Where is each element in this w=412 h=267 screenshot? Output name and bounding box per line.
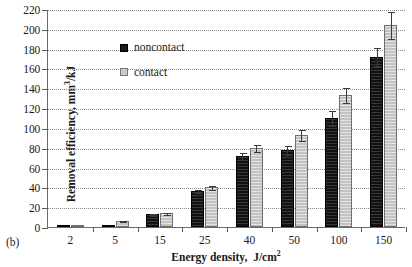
y-axis-tick bbox=[42, 89, 48, 90]
x-axis-tick bbox=[227, 227, 228, 232]
y-axis-tick-label: 160 bbox=[23, 63, 40, 75]
x-axis-tick bbox=[361, 227, 362, 232]
y-axis-tick-label: 0 bbox=[34, 222, 40, 234]
bar-noncontact-25 bbox=[191, 191, 204, 227]
bar-contact-50 bbox=[295, 135, 308, 227]
y-axis-tick bbox=[42, 129, 48, 130]
error-bar-noncontact-150 bbox=[377, 48, 378, 68]
error-bar-contact-40 bbox=[256, 145, 257, 153]
y-axis-tick-label: 20 bbox=[29, 202, 40, 214]
legend: noncontact contact bbox=[120, 42, 184, 91]
y-axis-tick bbox=[42, 10, 48, 11]
error-bar-contact-5 bbox=[122, 221, 123, 223]
error-bar-contact-100 bbox=[346, 88, 347, 104]
bar-noncontact-40 bbox=[236, 156, 249, 227]
x-axis-tick-label: 150 bbox=[375, 234, 392, 246]
bar-contact-150 bbox=[384, 25, 397, 227]
bar-noncontact-150 bbox=[370, 57, 383, 227]
x-axis-title-main: Energy density, bbox=[171, 251, 247, 263]
y-axis-tick bbox=[42, 188, 48, 189]
x-axis-tick-label: 15 bbox=[154, 234, 166, 246]
bar-group bbox=[191, 10, 218, 227]
error-bar-noncontact-50 bbox=[287, 146, 288, 156]
legend-label-noncontact: noncontact bbox=[134, 42, 184, 54]
error-bar-noncontact-15 bbox=[153, 214, 154, 217]
bar-contact-25 bbox=[205, 187, 218, 227]
legend-item-contact: contact bbox=[120, 67, 184, 79]
y-axis-tick-label: 200 bbox=[23, 24, 40, 36]
error-bar-contact-50 bbox=[301, 130, 302, 142]
y-axis-tick-label: 140 bbox=[23, 83, 40, 95]
x-axis-tick bbox=[317, 227, 318, 232]
y-axis-tick-label: 180 bbox=[23, 44, 40, 56]
x-axis-title-units-exponent: 2 bbox=[277, 249, 281, 258]
x-axis-tick bbox=[272, 227, 273, 232]
x-axis-tick-label: 5 bbox=[112, 234, 118, 246]
x-axis-tick bbox=[138, 227, 139, 232]
bar-noncontact-100 bbox=[325, 118, 338, 227]
x-axis-tick bbox=[93, 227, 94, 232]
bar-group bbox=[281, 10, 308, 227]
x-axis-tick-label: 100 bbox=[330, 234, 347, 246]
x-axis-tick-label: 2 bbox=[68, 234, 74, 246]
bar-contact-40 bbox=[250, 148, 263, 227]
legend-item-noncontact: noncontact bbox=[120, 42, 184, 54]
bar-noncontact-5 bbox=[102, 225, 115, 227]
error-bar-noncontact-25 bbox=[198, 190, 199, 194]
y-axis-tick bbox=[42, 169, 48, 170]
bar-group bbox=[236, 10, 263, 227]
legend-swatch-noncontact-icon bbox=[120, 44, 128, 52]
bar-noncontact-2 bbox=[57, 225, 70, 227]
bar-contact-100 bbox=[339, 95, 352, 227]
y-axis-tick bbox=[42, 69, 48, 70]
y-axis-tick-label: 40 bbox=[29, 182, 40, 194]
y-axis-tick bbox=[42, 50, 48, 51]
y-axis-tick bbox=[42, 30, 48, 31]
bar-group bbox=[57, 10, 84, 227]
panel-label: (b) bbox=[6, 236, 19, 248]
plot-area: 020406080100120140160180200220 251525405… bbox=[47, 10, 405, 228]
error-bar-noncontact-40 bbox=[242, 153, 243, 161]
bar-noncontact-50 bbox=[281, 150, 294, 227]
y-axis-tick-label: 120 bbox=[23, 103, 40, 115]
y-axis-tick bbox=[42, 228, 48, 229]
y-axis-tick bbox=[42, 208, 48, 209]
y-axis-tick-label: 220 bbox=[23, 4, 40, 16]
x-axis-tick-label: 40 bbox=[244, 234, 256, 246]
error-bar-contact-150 bbox=[391, 12, 392, 40]
error-bar-contact-25 bbox=[212, 186, 213, 191]
y-axis-tick-label: 100 bbox=[23, 123, 40, 135]
y-axis-tick-label: 60 bbox=[29, 163, 40, 175]
y-axis-tick bbox=[42, 149, 48, 150]
error-bar-noncontact-100 bbox=[332, 111, 333, 127]
x-axis-tick-label: 50 bbox=[288, 234, 300, 246]
bar-contact-2 bbox=[71, 225, 84, 227]
legend-swatch-contact-icon bbox=[120, 68, 128, 76]
x-axis-title-units-base: J/cm bbox=[253, 251, 277, 263]
figure-panel-b: (b) Removal efficiency, mm3/kJ Energy de… bbox=[0, 0, 412, 267]
y-axis-tick-label: 80 bbox=[29, 143, 40, 155]
legend-label-contact: contact bbox=[134, 67, 167, 79]
x-axis-tick bbox=[182, 227, 183, 232]
error-bar-contact-15 bbox=[167, 213, 168, 216]
x-axis-tick-label: 25 bbox=[199, 234, 211, 246]
bar-group bbox=[325, 10, 352, 227]
bar-group bbox=[370, 10, 397, 227]
x-axis-title: Energy density, J/cm2 bbox=[47, 249, 405, 263]
x-axis-tick bbox=[406, 227, 407, 232]
y-axis-tick bbox=[42, 109, 48, 110]
